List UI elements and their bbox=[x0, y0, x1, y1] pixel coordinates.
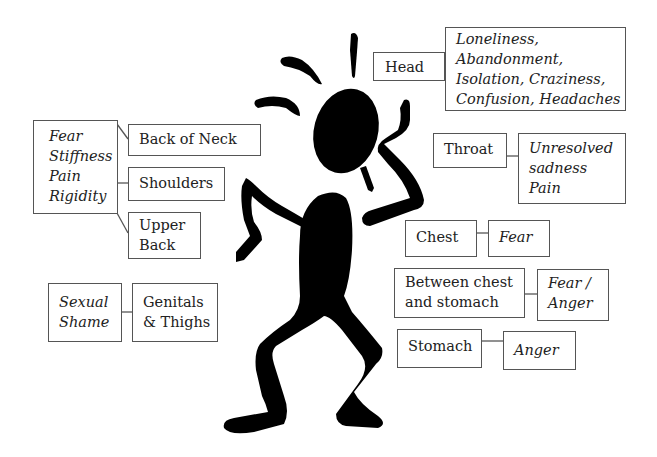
chest-region-box: Chest bbox=[405, 220, 477, 257]
sexual-shame-box: Sexual Shame bbox=[48, 283, 122, 342]
throat-region-label: Throat bbox=[444, 139, 506, 159]
stomach-region-box: Stomach bbox=[397, 329, 482, 368]
shoulders-region-box: Shoulders bbox=[128, 167, 225, 201]
chest-region-label: Chest bbox=[416, 227, 476, 247]
emotion-anger-stomach: Anger bbox=[514, 340, 575, 360]
emotion-loneliness: Loneliness, bbox=[456, 29, 625, 49]
genitals-thighs-region-box: Genitals & Thighs bbox=[132, 283, 218, 342]
emotion-stiffness: Stiffness bbox=[49, 146, 117, 166]
emotion-confusion-headaches: Confusion, Headaches bbox=[456, 89, 625, 109]
emotion-pain: Pain bbox=[529, 178, 625, 198]
region-and-stomach: and stomach bbox=[405, 292, 524, 312]
emotion-pain-left: Pain bbox=[49, 166, 117, 186]
between-emotions-box: Fear / Anger bbox=[537, 269, 609, 321]
emotion-anger: Anger bbox=[548, 293, 608, 313]
emotion-sexual: Sexual bbox=[59, 292, 121, 312]
region-between-chest: Between chest bbox=[405, 272, 524, 292]
back-of-neck-label: Back of Neck bbox=[139, 129, 260, 149]
emotion-unresolved: Unresolved bbox=[529, 138, 625, 158]
head-region-box: Head bbox=[373, 52, 445, 81]
stomach-region-label: Stomach bbox=[408, 336, 481, 356]
stressed-figure-icon bbox=[224, 33, 424, 433]
shoulders-label: Shoulders bbox=[139, 173, 224, 193]
emotion-shame: Shame bbox=[59, 312, 121, 332]
stomach-emotions-box: Anger bbox=[503, 331, 576, 370]
head-region-label: Head bbox=[385, 57, 444, 77]
upper-back-label-line1: Upper bbox=[139, 215, 200, 235]
between-chest-stomach-region-box: Between chest and stomach bbox=[394, 268, 525, 318]
upper-back-region-box: Upper Back bbox=[128, 212, 201, 259]
thighs-label: & Thighs bbox=[143, 312, 217, 332]
back-of-neck-region-box: Back of Neck bbox=[128, 124, 261, 156]
upper-body-emotions-box: Fear Stiffness Pain Rigidity bbox=[33, 120, 118, 214]
head-emotions-box: Loneliness, Abandonment, Isolation, Craz… bbox=[445, 27, 626, 111]
emotion-abandonment: Abandonment, bbox=[456, 49, 625, 69]
upper-back-label-line2: Back bbox=[139, 235, 200, 255]
emotion-rigidity: Rigidity bbox=[49, 186, 117, 206]
emotion-fear-left: Fear bbox=[49, 126, 117, 146]
chest-emotions-box: Fear bbox=[488, 220, 550, 257]
emotion-sadness: sadness bbox=[529, 158, 625, 178]
throat-emotions-box: Unresolved sadness Pain bbox=[518, 133, 626, 204]
emotion-fear: Fear bbox=[499, 227, 549, 247]
emotion-isolation-craziness: Isolation, Craziness, bbox=[456, 69, 625, 89]
emotion-fear-slash: Fear / bbox=[548, 273, 608, 293]
genitals-label: Genitals bbox=[143, 292, 217, 312]
throat-region-box: Throat bbox=[433, 133, 507, 168]
